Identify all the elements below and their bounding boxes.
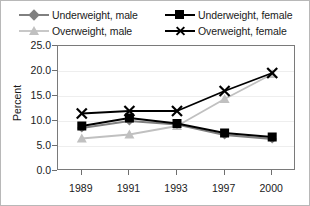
x-axis-tick-mark (81, 170, 82, 175)
y-axis-tick-label: 10.0 (17, 115, 51, 125)
legend-label: Overweight, female (198, 25, 287, 37)
square-marker-icon (165, 9, 195, 21)
square-marker-icon (268, 133, 277, 142)
y-axis-tick-label: 15.0 (17, 90, 51, 100)
chart-series-canvas (58, 46, 296, 171)
x-axis-tick-label: 1997 (201, 182, 247, 194)
x-axis-tick-label: 1993 (153, 182, 199, 194)
legend-label: Underweight, female (198, 9, 292, 21)
x-axis-tick-mark (271, 170, 272, 175)
x-marker-icon (165, 25, 195, 37)
y-axis-tick-label: 20.0 (17, 65, 51, 75)
square-marker-icon (220, 129, 229, 138)
chart-figure: Underweight, male Underweight, female Ov… (0, 0, 310, 206)
x-axis-tick-mark (128, 170, 129, 175)
series-overweight-female (77, 68, 277, 119)
x-axis-tick-label: 1991 (105, 182, 151, 194)
y-axis-tick-label: 25.0 (17, 40, 51, 50)
y-axis-tick-labels: 25.020.015.010.05.00.0 (17, 1, 51, 206)
x-axis-tick-label: 2000 (248, 182, 294, 194)
x-axis-tick-mark (224, 170, 225, 175)
series-line (82, 73, 272, 114)
x-axis-tick-marks (1, 170, 310, 175)
series-overweight-male (77, 69, 277, 143)
y-axis-tick-label: 5.0 (17, 140, 51, 150)
square-marker-icon (77, 122, 86, 131)
legend-item-overweight-female[interactable]: Overweight, female (165, 24, 287, 38)
x-axis-tick-label: 1989 (58, 182, 104, 194)
plot-area (57, 45, 295, 170)
legend-label: Overweight, male (52, 25, 132, 37)
legend-item-underweight-female[interactable]: Underweight, female (165, 8, 292, 22)
chart-legend: Underweight, male Underweight, female Ov… (19, 7, 297, 39)
legend-label: Underweight, male (52, 9, 138, 21)
square-marker-icon (173, 119, 182, 128)
x-axis-tick-mark (176, 170, 177, 175)
